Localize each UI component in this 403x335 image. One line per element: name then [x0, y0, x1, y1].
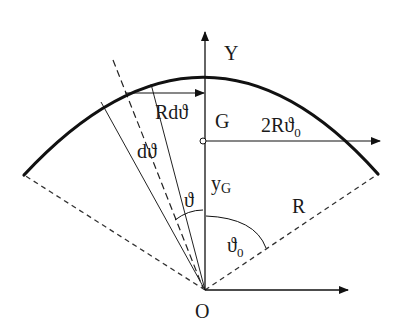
label-element-angle: dϑ [137, 140, 157, 162]
left-radius-dashed [24, 175, 205, 290]
circular-arc [24, 77, 378, 175]
centroid-point [200, 138, 206, 144]
arc-centroid-diagram: Y Rdϑ G 2Rϑ0 dϑ yG ϑ R ϑ0 O [0, 0, 403, 335]
label-element-length: Rdϑ [155, 101, 188, 123]
label-radius: R [292, 195, 306, 217]
label-y-axis: Y [224, 42, 238, 64]
label-angle: ϑ [184, 189, 194, 211]
label-origin: O [195, 300, 209, 322]
label-chord-length: 2Rϑ0 [261, 114, 301, 140]
label-centroid: G [215, 110, 229, 132]
label-half-angle: ϑ0 [227, 234, 243, 260]
angle-theta-arc [175, 210, 203, 220]
label-centroid-distance: yG [211, 172, 231, 196]
